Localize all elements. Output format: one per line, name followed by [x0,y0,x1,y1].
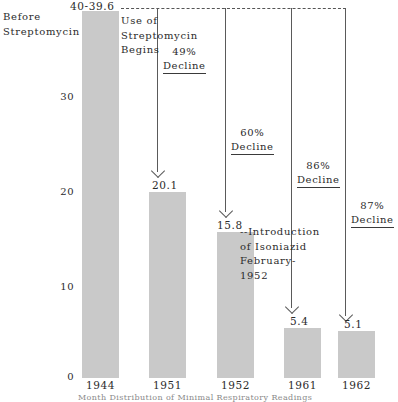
decline-49-percent: 49% [163,45,206,59]
bar-1962-value-label: 5.1 [344,318,363,330]
decline-60-word: Decline [231,140,274,155]
x-tick-1951: 1951 [137,379,198,391]
bar-1951-value-label: 20.1 [152,179,178,191]
decline-86-word: Decline [297,173,340,188]
bar-1951 [149,192,186,378]
decline-87-percent: 87% [351,199,394,213]
bar-1961 [284,328,321,378]
arrowhead-1951 [151,164,165,178]
y-tick-0: 0 [34,371,74,382]
y-tick-10: 10 [34,281,74,292]
reference-dashed-line [121,8,346,9]
bar-1961-value-label: 5.4 [290,315,309,327]
annotation-isoniazid-introduction: --Introduction of Isoniazid February- 19… [240,225,320,283]
x-tick-1961: 1961 [272,379,333,391]
decline-60-percent: 60% [231,126,274,140]
decline-87-word: Decline [351,213,394,228]
y-tick-30: 30 [34,91,74,102]
x-tick-1944: 1944 [70,379,131,391]
dropline-1962 [345,8,346,316]
annotation-before-streptomycin: Before Streptomycin [3,10,80,39]
decline-annotation-49: 49% Decline [163,45,206,74]
arrowhead-1961 [285,300,299,314]
figure-caption: Month Distribution of Minimal Respirator… [78,393,312,402]
bar-1944 [82,11,119,378]
arrowhead-1952 [219,204,233,218]
y-tick-20: 20 [34,186,74,197]
decline-annotation-87: 87% Decline [351,199,394,228]
x-tick-1962: 1962 [326,379,387,391]
decline-annotation-60: 60% Decline [231,126,274,155]
bar-1962 [338,331,375,378]
bar-1952-value-label: 15.8 [217,219,243,231]
dropline-1952 [225,8,226,212]
x-tick-1952: 1952 [205,379,266,391]
decline-49-word: Decline [163,59,206,74]
decline-86-percent: 86% [297,159,340,173]
decline-annotation-86: 86% Decline [297,159,340,188]
